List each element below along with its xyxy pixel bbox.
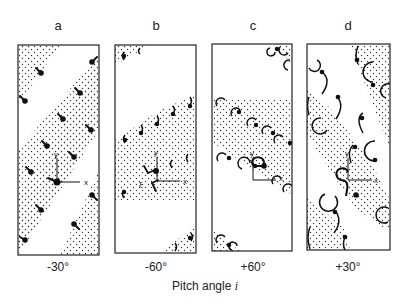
axis-y-label-d: y xyxy=(345,149,349,158)
panel-d-angle: +30° xyxy=(318,260,378,274)
caption-variable: i xyxy=(235,279,238,293)
axis-y-label-a: y xyxy=(54,150,58,159)
caption-text: Pitch angle xyxy=(172,279,235,293)
axis-y-label-c: y xyxy=(250,149,254,158)
dotted-band xyxy=(18,45,60,105)
axis-x-label-b: x xyxy=(183,177,187,186)
axis-xi-label-b: ξ xyxy=(139,180,143,189)
figure-caption: Pitch angle i xyxy=(150,279,260,294)
axis-x-label-c: x xyxy=(279,174,283,183)
dotted-band xyxy=(115,45,150,65)
panel-c-angle: +60° xyxy=(223,260,283,274)
panel-a xyxy=(18,45,99,255)
dotted-band xyxy=(60,170,99,255)
panel-a-angle: -30° xyxy=(28,260,88,274)
axis-y-label-b: y xyxy=(154,148,158,157)
panel-b-angle: -60° xyxy=(126,260,186,274)
panel-c xyxy=(212,44,292,251)
axis-x-label-a: x xyxy=(84,178,88,187)
axis-x-label-d: x xyxy=(374,176,378,185)
panel-d xyxy=(307,44,390,250)
